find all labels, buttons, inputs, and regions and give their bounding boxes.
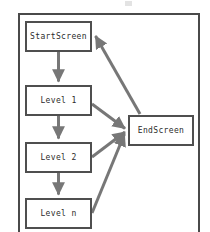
diagram-screenshot: StartScreen Level 1 Level 2 Level n EndS… xyxy=(0,0,210,232)
node-level-2[interactable]: Level 2 xyxy=(25,142,92,173)
node-end-screen[interactable]: EndScreen xyxy=(128,115,194,146)
node-level-n[interactable]: Level n xyxy=(25,198,92,229)
edge-level1-to-end xyxy=(92,104,125,129)
node-level-2-label: Level 2 xyxy=(40,153,76,162)
node-start-screen-label: StartScreen xyxy=(30,32,87,41)
node-level-1-label: Level 1 xyxy=(40,96,76,105)
edge-end-to-start xyxy=(96,36,141,114)
node-start-screen[interactable]: StartScreen xyxy=(25,21,92,52)
node-level-n-label: Level n xyxy=(40,209,76,218)
node-level-1[interactable]: Level 1 xyxy=(25,85,92,116)
node-end-screen-label: EndScreen xyxy=(138,126,185,135)
